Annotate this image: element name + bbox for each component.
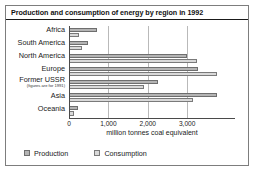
page-title: Production and consumption of energy by … [6, 8, 203, 17]
x-axis-line [69, 118, 235, 119]
legend-item-production: Production [24, 149, 68, 158]
bar-consumption-south-america [69, 46, 82, 50]
y-axis-line [69, 26, 70, 119]
bar-production-asia [69, 93, 217, 97]
y-tick-north-america: North America [19, 52, 65, 60]
bar-consumption-europe [69, 72, 217, 76]
x-tick-2000: 2,000 [140, 120, 157, 127]
y-tick-asia: Asia [51, 92, 65, 100]
bars-container [69, 26, 234, 118]
chart-legend: Production Consumption [6, 146, 248, 160]
y-tick-south-america: South America [18, 39, 65, 47]
legend-item-consumption: Consumption [94, 149, 146, 158]
y-tick-former-ussr: Former USSR (figures are for 1991) [19, 76, 65, 89]
bar-production-north-america [69, 54, 187, 58]
y-tick-former-ussr-note: (figures are for 1991) [19, 84, 65, 89]
chart-title-bar: Production and consumption of energy by … [6, 6, 248, 20]
bar-consumption-north-america [69, 59, 197, 63]
bar-production-south-america [69, 41, 88, 45]
bar-production-europe [69, 67, 198, 71]
x-tick-1000: 1,000 [100, 120, 117, 127]
x-tick-3000: 3,000 [179, 120, 196, 127]
chart-figure: Production and consumption of energy by … [5, 5, 249, 166]
x-axis-title: million tonnes coal equivalent [69, 129, 235, 136]
legend-label-production: Production [34, 149, 68, 158]
bar-production-africa [69, 28, 97, 32]
bar-production-oceania [69, 106, 78, 110]
legend-label-consumption: Consumption [104, 149, 146, 158]
legend-swatch-production-icon [24, 150, 30, 156]
bar-consumption-asia [69, 98, 193, 102]
bar-consumption-africa [69, 33, 79, 37]
plot-area: Africa South America North America Europ… [6, 20, 248, 167]
legend-swatch-consumption-icon [94, 150, 100, 156]
y-tick-oceania: Oceania [38, 105, 65, 113]
bar-production-former-ussr [69, 80, 158, 84]
y-tick-europe: Europe [41, 65, 65, 73]
bar-consumption-former-ussr [69, 85, 144, 89]
x-tick-0: 0 [67, 120, 71, 127]
y-axis-labels: Africa South America North America Europ… [6, 26, 67, 118]
bar-rows [69, 26, 234, 118]
y-tick-africa: Africa [46, 26, 65, 34]
